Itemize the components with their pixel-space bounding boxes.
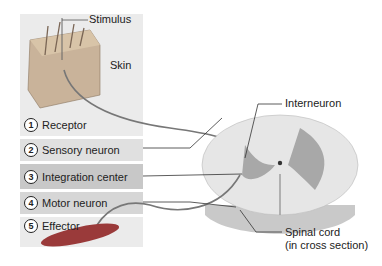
step-label: Effector xyxy=(42,220,80,232)
step-sensory-neuron: 2 Sensory neuron xyxy=(20,139,143,161)
spinal-cord-sublabel: (in cross section) xyxy=(285,239,368,251)
step-label: Motor neuron xyxy=(42,197,107,209)
spinal-cord-label: Spinal cord xyxy=(285,226,340,238)
step-integration-center: 3 Integration center xyxy=(20,164,143,189)
step-label: Receptor xyxy=(42,119,87,131)
step-number: 4 xyxy=(24,196,38,210)
stimulus-label: Stimulus xyxy=(89,13,131,25)
interneuron-label: Interneuron xyxy=(285,97,341,109)
skin-label: Skin xyxy=(110,59,131,71)
step-label: Integration center xyxy=(42,171,128,183)
step-number: 2 xyxy=(24,143,38,157)
step-effector: 5 Effector xyxy=(20,217,143,235)
skin-illustration xyxy=(28,18,100,108)
step-motor-neuron: 4 Motor neuron xyxy=(20,192,143,214)
step-number: 1 xyxy=(24,118,38,132)
step-number: 3 xyxy=(24,170,38,184)
step-receptor: 1 Receptor xyxy=(20,115,143,135)
step-label: Sensory neuron xyxy=(42,144,120,156)
step-number: 5 xyxy=(24,219,38,233)
